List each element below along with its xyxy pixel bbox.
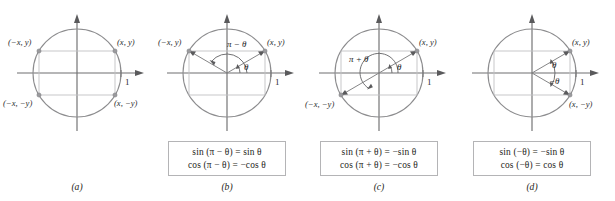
x-axis-arrow-icon <box>285 70 294 76</box>
point-bottom-right <box>113 93 117 97</box>
point-top-left <box>37 49 41 53</box>
formula-cosine: cos (−θ) = cos θ <box>476 159 588 172</box>
panel-a-caption: (a) <box>0 181 154 192</box>
formula-sine: sin (π + θ) = −sin θ <box>323 146 435 159</box>
y-axis-arrow-icon <box>74 14 80 23</box>
label-angle-pi-minus-theta: π − θ <box>227 39 247 49</box>
point-top-left <box>187 49 191 53</box>
x-axis-arrow-icon <box>135 70 144 76</box>
label-point-bottom-right: (x, −y) <box>569 99 593 109</box>
label-point-top-right: (x, y) <box>267 37 285 47</box>
panel-c-caption: (c) <box>302 181 456 192</box>
point-bottom-right <box>568 93 572 97</box>
label-point-top-right: (x, y) <box>419 37 437 47</box>
point-top-right <box>568 49 572 53</box>
label-point-top-left: (−x, y) <box>158 37 182 47</box>
label-point-bottom-left: (−x, −y) <box>3 98 32 108</box>
label-point-top-right: (x, y) <box>572 37 590 47</box>
label-x-axis-unit: 1 <box>125 77 130 87</box>
arc-pi-plus-theta-arrow-icon <box>367 84 373 90</box>
label-angle-pi-plus-theta: π + θ <box>349 54 369 64</box>
label-x-axis-unit: 1 <box>580 77 585 87</box>
label-point-bottom-right: (x, −y) <box>114 98 138 108</box>
formula-sine: sin (π − θ) = sin θ <box>171 146 283 159</box>
point-bottom-left <box>339 93 343 97</box>
panel-a-diagram: (x, y) (−x, y) (−x, −y) (x, −y) 1 <box>0 0 154 201</box>
point-top-right <box>113 49 117 53</box>
label-x-axis-unit: 1 <box>275 77 280 87</box>
label-angle-theta: θ <box>244 62 249 72</box>
panel-d-caption: (d) <box>455 181 609 192</box>
label-angle-negative-theta: −θ <box>549 76 560 86</box>
label-point-top-right: (x, y) <box>117 37 135 47</box>
point-top-right <box>263 49 267 53</box>
point-bottom-left <box>37 93 41 97</box>
panel-c-diagram: (x, y) (−x, −y) π + θ θ 1 <box>302 0 456 140</box>
panel-b-caption: (b) <box>150 181 304 192</box>
formula-sine: sin (−θ) = −sin θ <box>476 146 588 159</box>
panel-b: (x, y) (−x, y) π − θ θ 1 sin (π − θ) = s… <box>150 0 304 201</box>
x-axis-arrow-icon <box>437 70 446 76</box>
y-axis-arrow-icon <box>376 14 382 23</box>
label-angle-theta: θ <box>552 60 557 70</box>
x-axis-arrow-icon <box>590 70 599 76</box>
radius-to-point-top-right <box>532 52 568 73</box>
panel-b-diagram: (x, y) (−x, y) π − θ θ 1 <box>150 0 304 140</box>
point-top-right <box>415 49 419 53</box>
y-axis-arrow-icon <box>529 14 535 23</box>
label-x-axis-unit: 1 <box>427 77 432 87</box>
trigonometric-identities-figure: (x, y) (−x, y) (−x, −y) (x, −y) 1 (a) <box>0 0 615 201</box>
panel-d: (x, y) (x, −y) θ −θ 1 sin (−θ) = −sin θ … <box>455 0 609 201</box>
panel-b-formula-box: sin (π − θ) = sin θ cos (π − θ) = −cos θ <box>168 141 286 176</box>
formula-cosine: cos (π − θ) = −cos θ <box>171 159 283 172</box>
formula-cosine: cos (π + θ) = −cos θ <box>323 159 435 172</box>
panel-c: (x, y) (−x, −y) π + θ θ 1 sin (π + θ) = … <box>302 0 456 201</box>
arc-pi-minus-theta <box>212 54 247 73</box>
panel-c-formula-box: sin (π + θ) = −sin θ cos (π + θ) = −cos … <box>320 141 438 176</box>
y-axis-arrow-icon <box>224 14 230 23</box>
label-angle-theta: θ <box>397 62 402 72</box>
panel-d-formula-box: sin (−θ) = −sin θ cos (−θ) = cos θ <box>473 141 591 176</box>
label-point-bottom-left: (−x, −y) <box>305 99 334 109</box>
panel-d-diagram: (x, y) (x, −y) θ −θ 1 <box>455 0 609 140</box>
label-point-top-left: (−x, y) <box>8 37 32 47</box>
panel-a: (x, y) (−x, y) (−x, −y) (x, −y) 1 (a) <box>0 0 154 201</box>
